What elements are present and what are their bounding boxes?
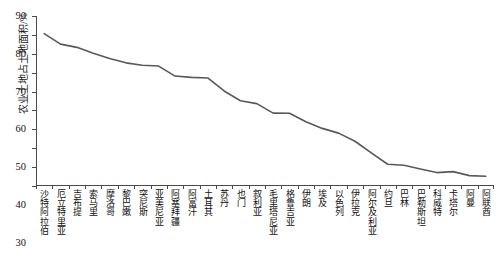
x-axis-label: 土耳其 bbox=[203, 189, 212, 217]
x-axis-label: 阿联酋 bbox=[481, 189, 490, 217]
x-axis-label: 也门 bbox=[236, 189, 245, 207]
x-axis-label: 科威特 bbox=[432, 189, 441, 217]
x-axis-label: 埃及 bbox=[318, 189, 327, 207]
x-axis-label: 吉布提 bbox=[72, 189, 81, 217]
data-series-line bbox=[36, 16, 494, 186]
x-axis-label: 摩洛哥 bbox=[105, 189, 114, 217]
x-axis-label: 约旦 bbox=[383, 189, 392, 207]
x-axis-label: 卡塔尔 bbox=[448, 189, 457, 217]
y-tick-label: 30 bbox=[16, 237, 27, 248]
x-axis-label: 巴林 bbox=[399, 189, 408, 207]
x-axis-label: 亚美尼亚 bbox=[154, 189, 163, 226]
y-axis-title: 农业土地占土地面积/% bbox=[15, 0, 30, 144]
x-axis-label: 伊拉克 bbox=[350, 189, 359, 217]
x-axis-labels: 沙特阿拉伯厄立特里亚吉布提索马里摩洛哥黎巴嫩突尼斯亚美尼亚阿塞拜疆阿富汗土耳其苏… bbox=[36, 189, 494, 251]
plot-area: 0102030405060708090 bbox=[36, 16, 494, 186]
y-tick-label: 80 bbox=[16, 49, 27, 60]
x-axis-label: 叙利亚 bbox=[252, 189, 261, 217]
x-axis-label: 黎巴嫩 bbox=[121, 189, 130, 217]
x-axis-label: 以色列 bbox=[334, 189, 343, 217]
x-axis-label: 沙特阿拉伯 bbox=[39, 189, 48, 235]
x-axis-label: 阿富汗 bbox=[187, 189, 196, 217]
x-axis-label: 突尼斯 bbox=[138, 189, 147, 217]
y-tick-label: 60 bbox=[16, 124, 27, 135]
y-tick-label: 70 bbox=[16, 86, 27, 97]
y-tick-label: 90 bbox=[16, 11, 27, 22]
y-tick-label: 40 bbox=[16, 200, 27, 211]
x-axis-label: 阿塞拜疆 bbox=[170, 189, 179, 226]
agricultural-land-line-chart: 农业土地占土地面积/% 0102030405060708090 沙特阿拉伯厄立特… bbox=[0, 0, 502, 257]
x-axis-label: 阿曼 bbox=[465, 189, 474, 207]
x-axis-label: 伊朗 bbox=[301, 189, 310, 207]
y-tick-label: 50 bbox=[16, 162, 27, 173]
x-axis-label: 巴勒斯坦 bbox=[416, 189, 425, 226]
x-axis-label: 厄立特里亚 bbox=[56, 189, 65, 235]
x-axis-label: 阿尔及利亚 bbox=[367, 189, 376, 235]
x-axis-label: 索马里 bbox=[89, 189, 98, 217]
x-axis-label: 格鲁吉亚 bbox=[285, 189, 294, 226]
x-axis-label: 苏丹 bbox=[219, 189, 228, 207]
x-axis-label: 毛里塔尼亚 bbox=[268, 189, 277, 235]
